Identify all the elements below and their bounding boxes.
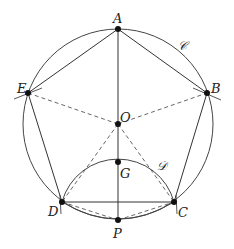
label-g: G xyxy=(120,166,130,181)
point-b xyxy=(204,90,210,96)
dash-oe xyxy=(28,93,118,124)
label-a: A xyxy=(112,11,122,26)
tick-c xyxy=(176,195,177,214)
side-ab xyxy=(118,29,207,93)
label-circle-c: 𝒞 xyxy=(178,39,190,53)
label-d: D xyxy=(47,204,59,219)
side-ea xyxy=(28,29,118,93)
pentagon-construction-diagram: A B C D E O G P 𝒞 𝒟 xyxy=(0,0,234,249)
dash-pc xyxy=(118,202,174,220)
point-d xyxy=(59,199,65,205)
label-p: P xyxy=(112,226,122,241)
label-b: B xyxy=(210,81,221,96)
label-o: O xyxy=(120,110,131,125)
point-g xyxy=(115,159,121,165)
dash-od xyxy=(62,124,118,202)
point-a xyxy=(115,26,121,32)
side-de xyxy=(28,93,62,202)
label-c: C xyxy=(178,205,188,220)
point-c xyxy=(171,199,177,205)
label-e: E xyxy=(16,81,27,96)
dash-dp xyxy=(62,202,118,220)
point-p xyxy=(115,217,121,223)
dash-ob xyxy=(118,93,207,124)
label-arc-d: 𝒟 xyxy=(157,159,169,173)
